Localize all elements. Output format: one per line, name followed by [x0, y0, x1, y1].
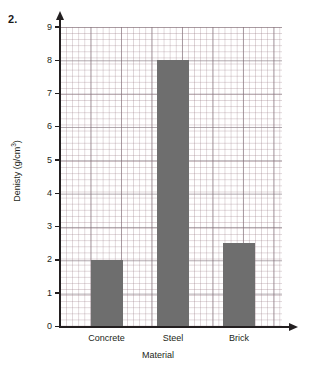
y-axis-title-superscript: 3 — [10, 143, 17, 147]
x-category-label-concrete: Concrete — [72, 333, 142, 343]
bar-chart-figure: 2. 0123456789 ConcreteSteelBrick Materia… — [0, 0, 316, 367]
y-tick-mark — [55, 159, 60, 160]
y-tick-mark — [55, 292, 60, 293]
y-tick-mark — [55, 326, 60, 327]
y-tick-mark — [55, 60, 60, 61]
y-tick-label: 3 — [22, 222, 52, 231]
x-axis-title: Material — [0, 350, 316, 360]
y-tick-mark — [55, 93, 60, 94]
y-tick-mark — [55, 226, 60, 227]
x-axis-line — [59, 326, 291, 328]
y-tick-label: 6 — [22, 122, 52, 131]
y-tick-label: 2 — [22, 255, 52, 264]
y-tick-label: 0 — [22, 322, 52, 331]
y-tick-mark — [55, 259, 60, 260]
y-tick-label: 9 — [22, 23, 52, 32]
question-number: 2. — [8, 13, 18, 25]
bar-brick — [223, 243, 255, 326]
y-axis-title-text: Denisty (g/cm — [12, 147, 22, 202]
y-tick-mark — [55, 193, 60, 194]
y-tick-label: 8 — [22, 56, 52, 65]
y-tick-mark — [55, 126, 60, 127]
x-category-label-steel: Steel — [138, 333, 208, 343]
y-tick-label: 7 — [22, 89, 52, 98]
y-tick-mark — [55, 26, 60, 27]
y-axis-title: Denisty (g/cm3) — [10, 111, 22, 231]
y-axis-line — [59, 18, 61, 328]
bar-concrete — [91, 260, 123, 327]
x-category-label-brick: Brick — [204, 333, 274, 343]
bar-steel — [157, 60, 189, 326]
y-tick-label: 1 — [22, 289, 52, 298]
y-axis-title-suffix: ) — [12, 140, 22, 143]
y-tick-label: 4 — [22, 189, 52, 198]
up-arrow-icon — [56, 11, 64, 20]
y-tick-label: 5 — [22, 156, 52, 165]
right-arrow-icon — [289, 323, 298, 331]
